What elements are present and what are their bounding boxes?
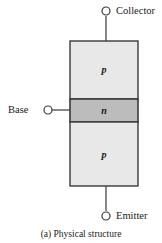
collector-region-label: p — [70, 65, 138, 75]
transistor-physical-structure-figure: Collector Base Emitter p n p (a) Physica… — [0, 0, 162, 243]
emitter-region-label: p — [70, 150, 138, 160]
emitter-label: Emitter — [116, 211, 148, 222]
figure-caption: (a) Physical structure — [0, 230, 162, 240]
transistor-diagram-svg — [0, 0, 162, 243]
base-terminal-icon — [44, 106, 52, 114]
collector-terminal-icon — [102, 7, 110, 15]
base-label: Base — [8, 105, 28, 116]
collector-label: Collector — [116, 6, 155, 17]
base-region-label: n — [70, 106, 138, 116]
emitter-terminal-icon — [102, 212, 110, 220]
